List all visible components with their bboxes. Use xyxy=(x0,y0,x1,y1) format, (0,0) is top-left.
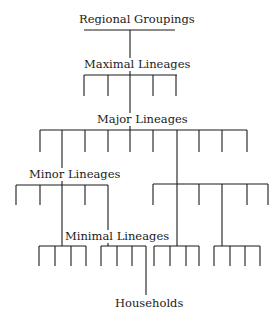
label-major-lineages: Major Lineages xyxy=(96,113,189,126)
label-minor-lineages: Minor Lineages xyxy=(28,168,121,181)
label-maximal-lineages: Maximal Lineages xyxy=(83,58,191,71)
lineage-diagram: Regional Groupings Maximal Lineages Majo… xyxy=(0,0,278,322)
label-regional-groupings: Regional Groupings xyxy=(78,13,196,26)
tree-lines xyxy=(0,0,278,322)
label-households: Households xyxy=(114,297,184,310)
label-minimal-lineages: Minimal Lineages xyxy=(64,230,170,243)
